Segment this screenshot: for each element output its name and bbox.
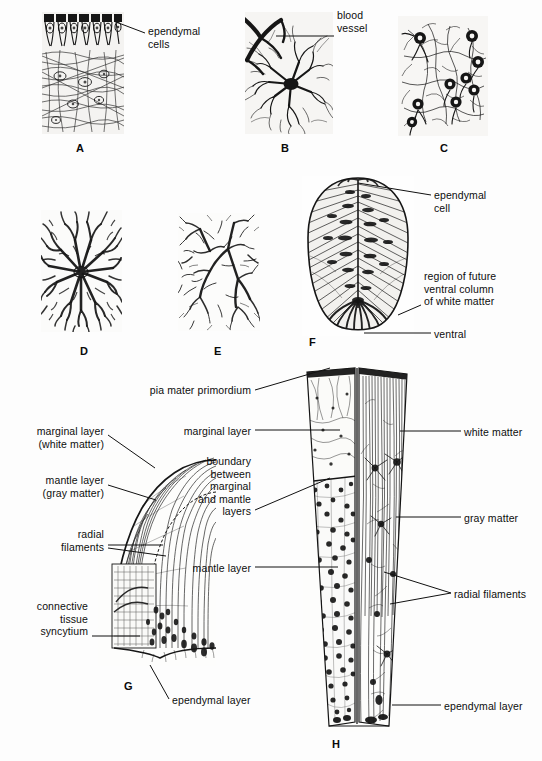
label-g-ependymal-layer: ependymal layer <box>172 694 251 707</box>
label-g-mantle-layer-gray: mantle layer (gray matter) <box>4 474 104 499</box>
panel-letter-F: F <box>309 336 316 348</box>
panel-H-art <box>303 364 411 732</box>
panel-C <box>398 16 488 136</box>
panel-letter-A: A <box>76 142 84 154</box>
panel-B-art <box>245 12 333 134</box>
label-f-ependymal-cell: ependymal cell <box>434 189 486 214</box>
label-h-gray-matter: gray matter <box>464 512 518 525</box>
panel-letter-B: B <box>281 142 289 154</box>
panel-E <box>178 213 260 331</box>
label-h-pia-mater-primordium: pia mater primordium <box>121 384 251 397</box>
panel-A <box>42 12 124 134</box>
panel-F-art <box>302 176 414 336</box>
label-f-ventral: ventral <box>434 328 466 341</box>
label-f-ventral-column: region of future ventral column of white… <box>424 270 496 308</box>
label-h-white-matter: white matter <box>464 426 522 439</box>
label-h-boundary-layers: boundary between marginal and mantle lay… <box>171 455 251 518</box>
label-h-radial-filaments: radial filaments <box>454 588 526 601</box>
leader-g-ependymal-layer <box>150 665 169 699</box>
label-h-ependymal-layer: ependymal layer <box>444 700 523 713</box>
label-g-marginal-layer-white: marginal layer (white matter) <box>4 425 104 450</box>
label-g-radial-filaments: radial filaments <box>24 528 104 553</box>
label-g-connective-tissue: connective tissue syncytium <box>8 600 88 638</box>
panel-B <box>245 12 333 134</box>
panel-letter-G: G <box>124 680 133 692</box>
panel-H <box>303 364 411 732</box>
panel-letter-E: E <box>214 345 221 357</box>
panel-C-art <box>398 16 488 136</box>
panel-letter-D: D <box>80 345 88 357</box>
label-h-mantle-layer: mantle layer <box>171 562 251 575</box>
panel-letter-C: C <box>440 142 448 154</box>
figure-canvas: A B <box>0 0 542 761</box>
panel-F <box>302 176 414 336</box>
panel-E-art <box>178 213 260 331</box>
panel-letter-H: H <box>332 738 340 750</box>
label-b-blood-vessel: blood vessel <box>337 9 367 34</box>
panel-D-art <box>41 210 122 332</box>
panel-A-art <box>42 12 124 134</box>
panel-D <box>41 210 122 332</box>
label-h-marginal-layer: marginal layer <box>161 425 251 438</box>
label-a-ependymal-cells: ependymal cells <box>148 25 200 50</box>
